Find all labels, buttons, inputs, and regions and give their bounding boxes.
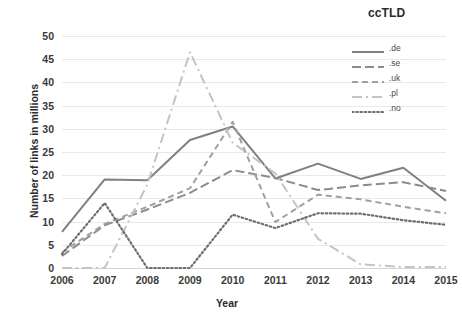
y-axis-tick-label: 35 [20,100,54,112]
y-axis-tick-label: 20 [20,169,54,181]
x-axis-tick-label: 2007 [83,274,127,286]
legend-label: .pl [389,88,398,98]
y-axis-tick-label: 50 [20,30,54,42]
legend-label: .no [389,103,401,113]
legend-swatch-icon [352,58,384,68]
x-axis-tick-label: 2010 [211,274,255,286]
y-axis-tick-label: 0 [20,262,54,274]
legend-swatch-icon [352,43,384,53]
chart-title: ccTLD [368,6,405,20]
y-axis-tick-label: 25 [20,146,54,158]
x-axis-tick-label: 2009 [168,274,212,286]
series-line-se [62,170,446,256]
legend-item-de[interactable]: .de [352,40,448,55]
x-axis-tick-label: 2015 [424,274,462,286]
series-line-de [62,126,446,231]
legend-swatch-icon [352,88,384,98]
legend-swatch-icon [352,73,384,83]
x-axis-title: Year [0,297,454,309]
legend: .de.se.uk.pl.no [352,40,448,115]
x-axis-tick-label: 2014 [381,274,425,286]
legend-swatch-icon [352,103,384,113]
y-axis-tick-label: 10 [20,216,54,228]
x-axis-tick-label: 2006 [40,274,84,286]
x-axis-tick-label: 2013 [339,274,383,286]
gridline [62,268,446,269]
legend-label: .uk [389,73,400,83]
legend-item-no[interactable]: .no [352,100,448,115]
x-axis-tick-label: 2011 [253,274,297,286]
series-line-uk [62,122,446,252]
x-axis-tick-label: 2012 [296,274,340,286]
y-axis-tick-label: 40 [20,76,54,88]
legend-item-se[interactable]: .se [352,55,448,70]
legend-item-uk[interactable]: .uk [352,70,448,85]
legend-label: .se [389,58,400,68]
y-axis-tick-label: 30 [20,123,54,135]
y-axis-tick-label: 15 [20,192,54,204]
legend-label: .de [389,43,401,53]
series-line-no [62,203,446,268]
legend-item-pl[interactable]: .pl [352,85,448,100]
x-axis-tick-label: 2008 [125,274,169,286]
y-axis-tick-label: 45 [20,53,54,65]
y-axis-tick-label: 5 [20,239,54,251]
